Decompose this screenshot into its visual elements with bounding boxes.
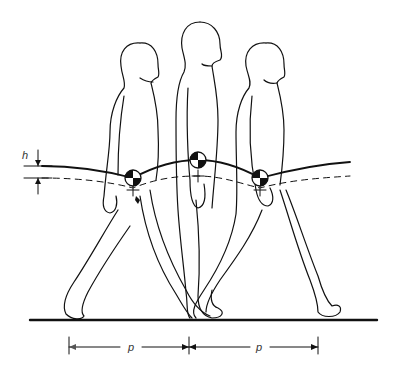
heel-arrow-icon (135, 196, 140, 204)
label-pace-left: p (127, 341, 134, 353)
com-symbol-right (252, 170, 268, 186)
pace-arrow-2 (182, 344, 189, 350)
gait-diagram: h p p (0, 0, 393, 372)
h-arrow-bottom (35, 178, 41, 184)
label-h: h (22, 149, 28, 161)
label-pace-right: p (255, 341, 262, 353)
com-symbol-middle (190, 152, 206, 168)
height-dimension (24, 150, 52, 194)
pace-arrow-3 (189, 344, 196, 350)
figure-middle (176, 22, 222, 318)
com-symbol-left (125, 170, 141, 186)
com-cross-markers (127, 170, 266, 196)
com-trajectory-dashed (42, 176, 350, 188)
h-arrow-top (35, 160, 41, 166)
pace-arrow-4 (311, 344, 318, 350)
pace-arrow-1 (69, 344, 76, 350)
diagram-canvas: h p p (0, 0, 393, 372)
